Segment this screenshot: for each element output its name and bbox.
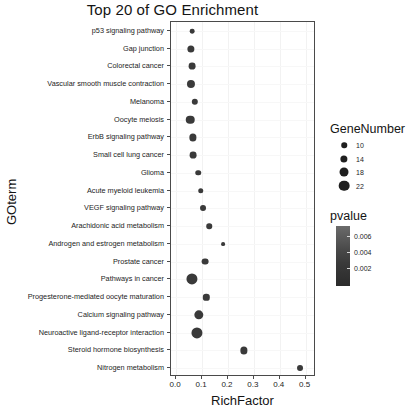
y-axis-label: VEGF signaling pathway [2,203,164,212]
data-point [191,327,202,338]
gridline-vertical [280,22,281,375]
y-axis-tick [167,314,170,315]
gridline-horizontal [171,226,314,227]
data-point [187,274,198,285]
data-point [198,188,204,194]
x-axis-tick [175,376,176,379]
y-axis-tick [167,101,170,102]
y-axis-label: ErbB signaling pathway [2,132,164,141]
data-point [190,29,195,34]
data-point [192,99,198,105]
data-point [297,365,303,371]
gridline-vertical [202,22,203,375]
y-axis-label: Acute myeloid leukemia [2,185,164,194]
size-legend-marker [341,142,347,148]
gridline-horizontal [171,244,314,245]
y-axis-tick [167,261,170,262]
chart-title: Top 20 of GO Enrichment [0,1,345,18]
gridline-horizontal [171,208,314,209]
x-axis-title: RichFactor [211,393,274,408]
size-legend-label: 10 [356,142,364,149]
y-axis-label: Melanoma [2,96,164,105]
y-axis-label: Neuroactive ligand-receptor interaction [2,327,164,336]
gridline-horizontal [171,173,314,174]
x-axis-tick [227,376,228,379]
colorbar-tick-label: 0.006 [354,233,372,240]
y-axis-tick [167,207,170,208]
x-axis-tick [279,376,280,379]
x-axis-tick-label: 0.0 [170,380,181,389]
y-axis-label: Nitrogen metabolism [2,363,164,372]
gridline-horizontal [171,191,314,192]
y-axis-label: Androgen and estrogen metabolism [2,238,164,247]
data-point [196,170,202,176]
y-axis-label: Prostate cancer [2,256,164,265]
gridline-horizontal [171,315,314,316]
y-axis-tick [167,136,170,137]
y-axis-tick [167,65,170,66]
y-axis-tick [167,278,170,279]
data-point [207,223,213,229]
x-axis-tick-label: 0.1 [196,380,207,389]
y-axis-label: Pathways in cancer [2,274,164,283]
data-point [203,294,209,300]
y-axis-tick [167,225,170,226]
gridline-horizontal [171,262,314,263]
y-axis-tick [167,190,170,191]
y-axis-label: Vascular smooth muscle contraction [2,79,164,88]
plot-panel [170,21,315,376]
x-axis-tick [201,376,202,379]
colorbar-tick [347,252,350,253]
size-legend-label: 18 [356,169,364,176]
data-point [188,63,195,70]
data-point [187,80,195,88]
colorbar-tick [347,236,350,237]
y-axis-label: Steroid hormone biosynthesis [2,345,164,354]
y-axis-tick [167,243,170,244]
pvalue-colorbar [336,226,350,286]
x-axis-tick-label: 0.4 [273,380,284,389]
size-legend-label: 22 [356,182,364,189]
y-axis-tick [167,296,170,297]
gridline-vertical [228,22,229,375]
gridline-vertical [176,22,177,375]
data-point [200,205,206,211]
colorbar-tick-label: 0.004 [354,249,372,256]
data-point [221,242,225,246]
size-legend-title: GeneNumber [330,122,405,136]
go-enrichment-bubble-chart: Top 20 of GO Enrichment p53 signaling pa… [0,0,408,413]
data-point [190,152,197,159]
y-axis-label: Progesterone-mediated oocyte maturation [2,292,164,301]
y-axis-tick [167,367,170,368]
y-axis-tick [167,48,170,49]
y-axis-tick [167,154,170,155]
data-point [202,258,209,265]
x-axis-tick [253,376,254,379]
y-axis-label: Arachidonic acid metabolism [2,221,164,230]
colorbar-tick [347,268,350,269]
colorbar-tick-label: 0.002 [354,265,372,272]
data-point [240,347,247,354]
y-axis-title: GOterm [4,179,19,225]
y-axis-label: Gap junction [2,43,164,52]
gridline-vertical [306,22,307,375]
y-axis-label: p53 signaling pathway [2,25,164,34]
size-legend-marker [340,168,349,177]
gridline-horizontal [171,297,314,298]
x-axis-tick-label: 0.3 [247,380,258,389]
gridline-horizontal [171,368,314,369]
y-axis-label: Calcium signaling pathway [2,309,164,318]
x-axis-tick [305,376,306,379]
y-axis-tick [167,349,170,350]
size-legend-marker [339,180,350,191]
y-axis-tick [167,119,170,120]
y-axis-label: Colorectal cancer [2,61,164,70]
size-legend-marker [340,155,347,162]
data-point [186,115,195,124]
x-axis-tick-label: 0.5 [299,380,310,389]
x-axis-tick-label: 0.2 [221,380,232,389]
y-axis-tick [167,172,170,173]
y-axis-tick [167,30,170,31]
color-legend-title: pvalue [330,209,367,223]
y-axis-tick [167,83,170,84]
